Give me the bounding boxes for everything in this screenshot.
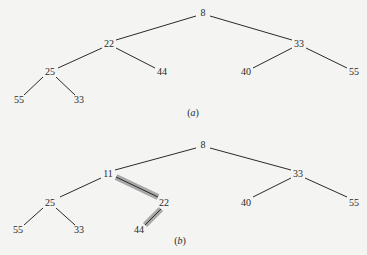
tree-edge (306, 48, 347, 68)
diagram-caption: (b) (174, 235, 186, 246)
tree-diagram-canvas (0, 0, 367, 255)
highlighted-edge (145, 209, 161, 225)
tree-edge (56, 208, 75, 225)
tree-edge (210, 16, 292, 40)
tree-node: 25 (45, 198, 55, 208)
tree-edge (60, 178, 101, 197)
tree-edge (305, 178, 347, 197)
tree-edge (210, 148, 291, 170)
tree-edge (116, 48, 155, 68)
tree-edge (56, 77, 75, 95)
tree-node: 44 (134, 225, 144, 235)
tree-node: 55 (13, 225, 23, 235)
tree-node: 44 (157, 67, 167, 77)
tree-node: 55 (349, 198, 359, 208)
tree-edge (58, 48, 102, 68)
tree-node: 55 (349, 67, 359, 77)
tree-node: 25 (45, 67, 55, 77)
tree-node: 33 (294, 39, 304, 49)
tree-a (24, 16, 347, 95)
tree-b (24, 148, 347, 225)
tree-node: 8 (201, 140, 206, 150)
tree-edge (24, 77, 43, 95)
highlighted-edge (116, 177, 158, 197)
tree-node: 22 (159, 198, 169, 208)
diagram-caption: (a) (187, 107, 199, 118)
tree-node: 8 (201, 8, 206, 18)
tree-node: 55 (14, 95, 24, 105)
tree-node: 40 (241, 67, 251, 77)
tree-edge (116, 16, 196, 40)
tree-node: 40 (241, 198, 251, 208)
tree-node: 11 (103, 169, 113, 179)
tree-edge (253, 48, 292, 68)
tree-node: 33 (74, 225, 84, 235)
tree-node: 22 (104, 39, 114, 49)
tree-edge (115, 148, 196, 170)
tree-edge (253, 178, 291, 197)
tree-node: 33 (74, 95, 84, 105)
tree-edge (24, 208, 43, 225)
tree-node: 33 (293, 169, 303, 179)
